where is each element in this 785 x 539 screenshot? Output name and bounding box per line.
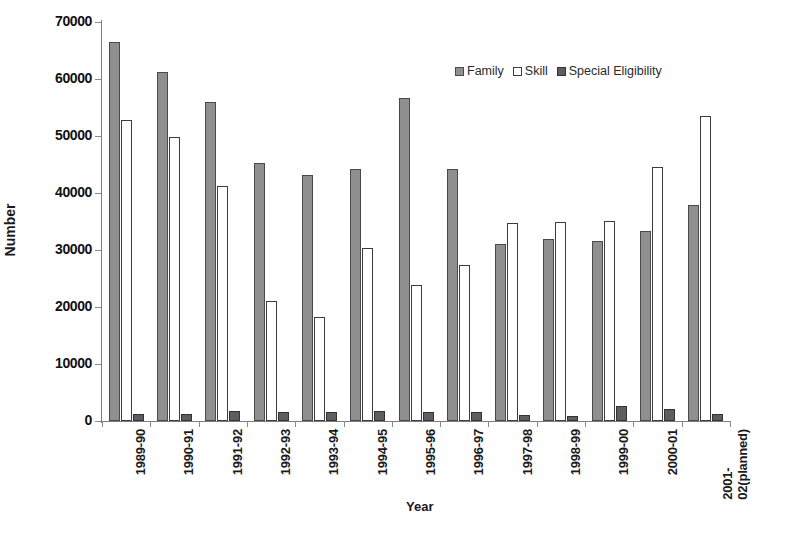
- bar-special: [229, 411, 240, 421]
- bar-group: [447, 22, 482, 421]
- bar-special: [567, 416, 578, 421]
- bar-skill: [121, 120, 132, 421]
- x-axis-category-label: 1989-90: [133, 429, 148, 475]
- x-axis-category-line: 1992-93: [278, 429, 293, 475]
- x-axis-tick: [392, 421, 393, 427]
- x-axis-tick: [537, 421, 538, 427]
- x-axis-category-line: 1989-90: [133, 429, 148, 475]
- y-axis-tick-label: 30000: [26, 242, 92, 256]
- x-axis-category-label: 2000-01: [665, 429, 680, 475]
- bar-special: [181, 414, 192, 421]
- legend-swatch-special: [557, 67, 566, 76]
- x-axis-category-label: 1994-95: [375, 429, 390, 475]
- x-axis-category-line: 1996-97: [471, 429, 486, 475]
- x-axis-category-label: 1991-92: [230, 429, 245, 475]
- bar-skill: [459, 265, 470, 421]
- x-axis-tick: [682, 421, 683, 427]
- x-axis-category-label: 1993-94: [326, 429, 341, 475]
- bar-group: [688, 22, 723, 421]
- bar-family: [157, 72, 168, 421]
- x-axis-tick: [633, 421, 634, 427]
- bar-family: [640, 231, 651, 421]
- bar-group: [640, 22, 675, 421]
- legend-label: Family: [467, 64, 504, 78]
- y-axis-tick-label: 40000: [26, 185, 92, 199]
- y-axis-tick-label: 50000: [26, 128, 92, 142]
- bar-special: [278, 412, 289, 421]
- bar-skill: [266, 301, 277, 421]
- x-axis-tick: [199, 421, 200, 427]
- bar-group: [350, 22, 385, 421]
- x-axis-category-line: 1993-94: [326, 429, 341, 475]
- bar-family: [254, 163, 265, 421]
- x-axis-category-label: 1995-96: [423, 429, 438, 475]
- bar-family: [447, 169, 458, 421]
- x-axis-category-line: 02(planned): [735, 429, 750, 500]
- bar-skill: [411, 285, 422, 421]
- bar-family: [592, 241, 603, 421]
- x-axis-category-line: 1999-00: [616, 429, 631, 475]
- chart-legend: FamilySkillSpecial Eligibility: [455, 64, 671, 78]
- x-axis-tick: [247, 421, 248, 427]
- bar-group: [109, 22, 144, 421]
- bar-special: [133, 414, 144, 421]
- bar-family: [399, 98, 410, 421]
- x-axis-tick: [440, 421, 441, 427]
- bar-skill: [314, 317, 325, 421]
- x-axis-line: [101, 421, 731, 422]
- y-axis-tick-label: 20000: [26, 299, 92, 313]
- x-axis-category-line: 1997-98: [520, 429, 535, 475]
- bar-group: [592, 22, 627, 421]
- bar-special: [374, 411, 385, 421]
- x-axis-category-line: 1998-99: [568, 429, 583, 475]
- bar-skill: [217, 186, 228, 421]
- bar-family: [350, 169, 361, 421]
- bar-group: [254, 22, 289, 421]
- bar-skill: [652, 167, 663, 421]
- x-axis-category-label: 1990-91: [181, 429, 196, 475]
- bar-family: [688, 205, 699, 421]
- x-axis-tick: [344, 421, 345, 427]
- x-axis-category-line: 1991-92: [230, 429, 245, 475]
- x-axis-category-label: 1999-00: [616, 429, 631, 475]
- bar-special: [519, 415, 530, 421]
- x-axis-tick: [102, 421, 103, 427]
- x-axis-tick: [295, 421, 296, 427]
- x-axis-category-label: 1997-98: [520, 429, 535, 475]
- bar-skill: [604, 221, 615, 421]
- legend-item: Skill: [513, 64, 548, 78]
- y-axis-tick-label: 0: [26, 413, 92, 427]
- x-axis-tick: [150, 421, 151, 427]
- bar-skill: [362, 248, 373, 421]
- bar-family: [495, 244, 506, 421]
- bar-group: [495, 22, 530, 421]
- bar-special: [471, 412, 482, 421]
- bar-skill: [555, 222, 566, 421]
- bar-family: [543, 239, 554, 421]
- x-axis-tick: [730, 421, 731, 427]
- bar-special: [664, 409, 675, 421]
- x-axis-category-line: 1995-96: [423, 429, 438, 475]
- plot-area: [102, 22, 730, 421]
- x-axis-category-line: 1990-91: [181, 429, 196, 475]
- y-axis-tick-label: 60000: [26, 71, 92, 85]
- x-axis-category-line: 2001-: [720, 429, 735, 500]
- x-axis-tick: [585, 421, 586, 427]
- bar-special: [616, 406, 627, 421]
- x-axis-category-line: 1994-95: [375, 429, 390, 475]
- bar-special: [423, 412, 434, 421]
- legend-swatch-skill: [513, 67, 522, 76]
- x-axis-tick: [488, 421, 489, 427]
- bar-group: [157, 22, 192, 421]
- x-axis-category-label: 2001-02(planned): [720, 429, 750, 500]
- x-axis-title: Year: [406, 499, 433, 514]
- legend-swatch-family: [455, 67, 464, 76]
- x-axis-category-line: 2000-01: [665, 429, 680, 475]
- bar-chart: Number 010000200003000040000500006000070…: [0, 0, 785, 539]
- y-axis-title: Number: [2, 204, 18, 257]
- bar-special: [712, 414, 723, 421]
- bar-group: [302, 22, 337, 421]
- x-axis-category-label: 1992-93: [278, 429, 293, 475]
- x-axis-category-label: 1996-97: [471, 429, 486, 475]
- bar-group: [543, 22, 578, 421]
